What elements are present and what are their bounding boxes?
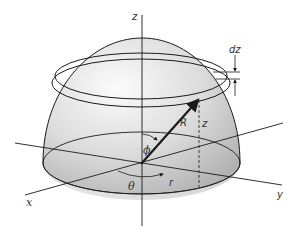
dz-label: dz xyxy=(229,44,241,55)
theta-label: θ xyxy=(128,180,135,193)
hemisphere-diagram: z dz R z ϕ θ r x y xyxy=(0,0,299,241)
radius-label: R xyxy=(180,117,187,128)
height-label: z xyxy=(201,118,208,129)
y-axis-label: y xyxy=(276,189,284,200)
phi-label: ϕ xyxy=(143,144,151,157)
z-axis-label: z xyxy=(131,11,138,22)
x-axis-label: x xyxy=(26,196,33,209)
